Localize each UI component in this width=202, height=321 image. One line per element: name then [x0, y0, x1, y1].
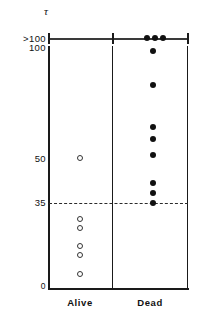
data-point-dead-overflow [152, 35, 158, 41]
axis-divider [112, 46, 113, 290]
data-point-dead-overflow [144, 35, 150, 41]
data-point-dead [150, 190, 156, 196]
data-point-alive [77, 225, 83, 231]
data-point-dead [150, 152, 156, 158]
axis-bottom [48, 288, 189, 290]
data-point-dead [150, 124, 156, 130]
x-label-alive: Alive [50, 297, 110, 308]
data-point-dead [150, 180, 156, 186]
axis-left [48, 46, 50, 290]
y-label-100: 100 [8, 42, 46, 53]
tau-symbol: τ [44, 5, 48, 17]
overflow-tick-left [48, 33, 50, 44]
data-point-alive [77, 155, 83, 161]
data-point-dead [150, 82, 156, 88]
data-point-dead-overflow [160, 35, 166, 41]
overflow-band-line [48, 38, 189, 40]
overflow-tick-right [187, 33, 189, 44]
data-point-alive [77, 271, 83, 277]
y-label-50: 50 [8, 153, 46, 164]
y-label-35: 35 [8, 197, 46, 208]
data-point-alive [77, 252, 83, 258]
data-point-alive [77, 216, 83, 222]
axis-right [187, 46, 188, 290]
x-label-dead: Dead [120, 297, 180, 308]
scatter-strip-plot: τ >100 100 50 35 0 Alive Dead [0, 0, 202, 321]
overflow-tick-mid [112, 33, 114, 44]
data-point-alive [77, 243, 83, 249]
data-point-dead [150, 200, 156, 206]
y-label-0: 0 [8, 281, 46, 291]
data-point-dead [150, 136, 156, 142]
threshold-line-35 [49, 203, 188, 204]
data-point-dead [150, 48, 156, 54]
